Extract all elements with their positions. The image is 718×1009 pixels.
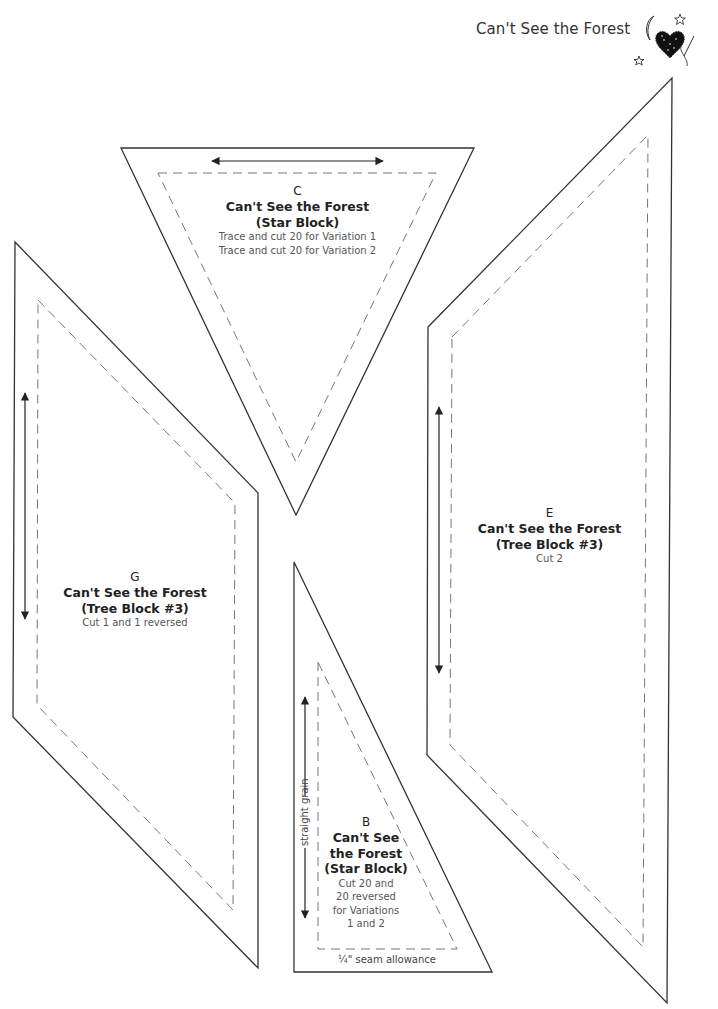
piece-g-label: G Can't See the Forest (Tree Block #3) C… — [55, 570, 215, 630]
piece-c-letter: C — [195, 184, 400, 199]
piece-c-instruction-1: Trace and cut 20 for Variation 1 — [195, 230, 400, 244]
piece-c-block: (Star Block) — [195, 215, 400, 231]
piece-b-instruction-4: 1 and 2 — [316, 917, 416, 931]
piece-c-name: Can't See the Forest — [195, 199, 400, 215]
heart-moon-stars-needle-icon — [634, 14, 694, 66]
piece-e-name: Can't See the Forest — [472, 521, 627, 537]
piece-e-label: E Can't See the Forest (Tree Block #3) C… — [472, 506, 627, 566]
piece-b-letter: B — [316, 815, 416, 830]
piece-b-name-2: the Forest — [316, 846, 416, 862]
piece-b-block: (Star Block) — [316, 861, 416, 877]
piece-b-seam-allowance-label: ¼" seam allowance — [338, 954, 436, 965]
piece-b-instruction-1: Cut 20 and — [316, 877, 416, 891]
piece-g-name: Can't See the Forest — [55, 585, 215, 601]
piece-e-letter: E — [472, 506, 627, 521]
piece-g-letter: G — [55, 570, 215, 585]
piece-g-instruction-1: Cut 1 and 1 reversed — [55, 616, 215, 630]
piece-e-block: (Tree Block #3) — [472, 537, 627, 553]
piece-b-label: B Can't See the Forest (Star Block) Cut … — [316, 815, 416, 931]
piece-c-label: C Can't See the Forest (Star Block) Trac… — [195, 184, 400, 257]
page-header-title: Can't See the Forest — [476, 20, 630, 38]
piece-e-instruction-1: Cut 2 — [472, 552, 627, 566]
piece-b-instruction-2: 20 reversed — [316, 890, 416, 904]
piece-b-instruction-3: for Variations — [316, 904, 416, 918]
piece-g-block: (Tree Block #3) — [55, 601, 215, 617]
piece-b-grain-label: straight grain — [299, 778, 310, 846]
piece-c-instruction-2: Trace and cut 20 for Variation 2 — [195, 244, 400, 258]
piece-b-name-1: Can't See — [316, 830, 416, 846]
